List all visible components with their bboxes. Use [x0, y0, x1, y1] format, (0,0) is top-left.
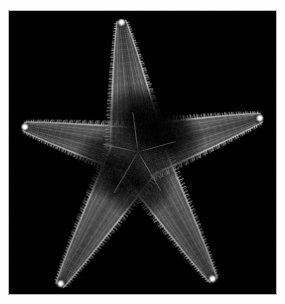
- photo-frame: [8, 10, 277, 295]
- image-stage: Photograph of a five-armed starfish on a…: [0, 0, 285, 304]
- starfish-photograph: [9, 11, 276, 294]
